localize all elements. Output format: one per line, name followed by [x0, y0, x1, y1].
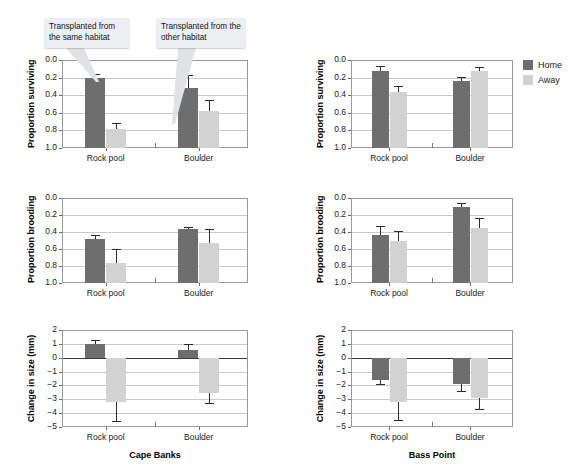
error-bar [461, 384, 462, 391]
y-tick-mark [348, 372, 351, 373]
grid-line [352, 344, 512, 345]
y-tick-mark [348, 399, 351, 400]
grid-line [352, 399, 512, 400]
legend-swatch-away [523, 75, 533, 85]
x-tick-mark [470, 427, 471, 430]
y-tick-label: −4 [336, 408, 346, 417]
y-tick-mark [348, 385, 351, 386]
figure-panel-grid: 0.00.20.40.60.81.0Proportion survivingRo… [0, 0, 582, 466]
y-tick-label: −2 [336, 380, 346, 389]
x-tick-label: Boulder [430, 433, 510, 442]
error-bar [479, 398, 480, 409]
callout-other-habitat: Transplanted from the other habitat [156, 18, 246, 48]
legend-label-away: Away [538, 75, 560, 85]
y-tick-mark [348, 344, 351, 345]
x-axis-mid-tick [432, 422, 433, 427]
y-tick-label: −3 [336, 394, 346, 403]
grid-line [352, 385, 512, 386]
x-tick-label: Rock pool [349, 433, 429, 442]
y-tick-label: 2 [341, 325, 346, 334]
y-tick-label: 0 [341, 353, 346, 362]
x-tick-mark [389, 427, 390, 430]
error-bar-cap [394, 420, 403, 421]
legend-swatch-home [523, 60, 533, 70]
y-tick-label: −1 [336, 367, 346, 376]
y-tick-mark [348, 330, 351, 331]
bar-home-rock-pool [372, 358, 389, 380]
site-label-bass-point: Bass Point [351, 450, 513, 460]
chart-panel-bass-point-change-in-size: 210−1−2−3−4−5Change in size (mm)Rock poo… [0, 0, 582, 466]
chart-legend: HomeAway [523, 60, 581, 96]
bar-away-boulder [471, 358, 488, 398]
legend-label-home: Home [538, 60, 562, 70]
y-tick-label: −5 [336, 422, 346, 431]
legend-item-home[interactable]: Home [523, 60, 562, 70]
error-bar-cap [475, 409, 484, 410]
callout-same-habitat: Transplanted from the same habitat [44, 18, 130, 48]
error-bar-cap [457, 391, 466, 392]
grid-line [352, 413, 512, 414]
bar-away-rock-pool [390, 358, 407, 402]
y-tick-mark [348, 413, 351, 414]
legend-item-away[interactable]: Away [523, 75, 560, 85]
bar-home-boulder [453, 358, 470, 384]
y-tick-mark [348, 358, 351, 359]
y-tick-label: 1 [341, 339, 346, 348]
error-bar [398, 402, 399, 421]
error-bar-cap [376, 384, 385, 385]
y-tick-mark [348, 427, 351, 428]
y-axis-label-bass-point-change-in-size: Change in size (mm) [315, 330, 325, 427]
